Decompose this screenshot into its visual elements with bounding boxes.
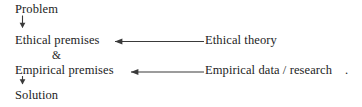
node-problem: Problem: [15, 2, 58, 16]
node-solution: Solution: [15, 88, 58, 102]
node-empirical-premises: Empirical premises: [15, 63, 114, 77]
node-ethical-premises: Ethical premises: [15, 33, 100, 47]
node-empirical-data: Empirical data / research: [205, 63, 332, 77]
node-ampersand: &: [52, 49, 61, 61]
argument-flow-diagram: Problem Ethical premises & Empirical pre…: [0, 0, 362, 107]
node-ethical-theory: Ethical theory: [205, 33, 277, 47]
trailing-period: .: [345, 63, 348, 77]
